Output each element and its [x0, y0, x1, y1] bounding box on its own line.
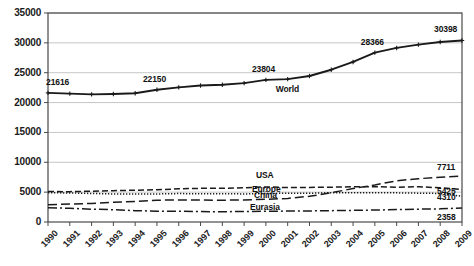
data-point-label: 21616	[46, 77, 69, 87]
y-tick-label: 5000	[0, 186, 41, 197]
y-tick-label: 0	[0, 216, 41, 227]
series-label-world: World	[276, 84, 299, 94]
data-point-label: 22150	[143, 74, 166, 84]
y-tick-label: 10000	[0, 156, 41, 167]
series-end-label-europe: 4310	[437, 192, 456, 202]
data-point-label: 30398	[434, 24, 457, 34]
data-point-label: 28366	[361, 37, 384, 47]
series-label-usa: USA	[256, 170, 274, 180]
series-end-label-eurasia: 2358	[437, 212, 456, 222]
y-tick-label: 35000	[0, 7, 41, 18]
y-tick-label: 25000	[0, 67, 41, 78]
data-point-label: 23804	[252, 64, 275, 74]
series-label-china: China	[254, 190, 277, 200]
y-tick-label: 30000	[0, 37, 41, 48]
gridlines	[48, 13, 462, 192]
y-tick-label: 20000	[0, 97, 41, 108]
series-end-label-china: 7711	[437, 162, 455, 172]
series-label-eurasia: Eurasia	[250, 202, 280, 212]
y-tick-label: 15000	[0, 126, 41, 137]
